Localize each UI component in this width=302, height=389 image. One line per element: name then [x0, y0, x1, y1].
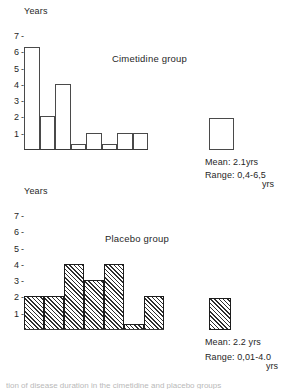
bar: [64, 264, 84, 329]
y-tick-label: 7: [14, 211, 19, 221]
y-tick-label: 5: [14, 64, 19, 74]
bar: [124, 324, 144, 329]
summary-bar-cimetidine: [209, 118, 234, 150]
y-tick-label: 3: [14, 96, 19, 106]
plot-area-placebo: 1-2-3-4-5-6-7-: [0, 208, 170, 330]
bar: [144, 296, 164, 329]
y-tick-2: 2-: [14, 292, 24, 302]
y-tick-label: 7: [14, 31, 19, 41]
bar: [86, 133, 102, 149]
y-tick-4: 4-: [14, 80, 24, 90]
y-tick-5: 5-: [14, 64, 24, 74]
bar: [117, 133, 133, 149]
y-tick-label: 6: [14, 227, 19, 237]
y-axis-ticks-placebo: 1-2-3-4-5-6-7-: [0, 208, 24, 330]
y-tick-7: 7-: [14, 31, 24, 41]
mean-label-placebo: Mean: 2.2 yrs: [205, 337, 261, 347]
bar: [133, 133, 149, 149]
y-tick-3: 3-: [14, 276, 24, 286]
bar: [44, 296, 64, 329]
bar: [55, 84, 71, 149]
bar: [104, 264, 124, 329]
y-tick-1: 1-: [14, 309, 24, 319]
y-tick-7: 7-: [14, 211, 24, 221]
range-label-cimetidine: Range: 0,4-6,5: [205, 170, 266, 180]
y-tick-4: 4-: [14, 260, 24, 270]
summary-bar-placebo: [209, 298, 231, 330]
y-tick-1: 1-: [14, 129, 24, 139]
mean-label-cimetidine: Mean: 2.1yrs: [205, 157, 258, 167]
bar: [40, 116, 56, 149]
range-unit-placebo: yrs: [266, 361, 278, 371]
y-tick-label: 3: [14, 276, 19, 286]
y-tick-label: 5: [14, 244, 19, 254]
y-tick-label: 1: [14, 129, 19, 139]
bar: [84, 280, 104, 329]
placebo-chart-panel: Years Placebo group 1-2-3-4-5-6-7- Mean:…: [0, 180, 302, 380]
y-tick-3: 3-: [14, 96, 24, 106]
y-tick-label: 6: [14, 47, 19, 57]
y-tick-5: 5-: [14, 244, 24, 254]
y-tick-label: 2: [14, 112, 19, 122]
bar-group-placebo: [24, 208, 164, 330]
y-tick-label: 2: [14, 292, 19, 302]
cimetidine-chart-panel: Years Cimetidine group 1-2-3-4-5-6-7- Me…: [0, 0, 302, 190]
y-tick-2: 2-: [14, 112, 24, 122]
y-axis-ticks-cimetidine: 1-2-3-4-5-6-7-: [0, 28, 24, 150]
plot-area-cimetidine: 1-2-3-4-5-6-7-: [0, 28, 170, 150]
y-tick-label: 1: [14, 309, 19, 319]
y-tick-label: 4: [14, 260, 19, 270]
bar: [24, 296, 44, 329]
y-tick-label: 4: [14, 80, 19, 90]
y-tick-6: 6-: [14, 47, 24, 57]
figure-caption: tion of disease duration in the cimetidi…: [6, 381, 296, 389]
bar-group-cimetidine: [24, 28, 148, 150]
range-label-placebo: Range: 0,01-4.0: [205, 352, 271, 362]
y-axis-title-placebo: Years: [24, 186, 48, 196]
y-tick-6: 6-: [14, 227, 24, 237]
bar: [102, 144, 118, 149]
bar: [71, 144, 87, 149]
y-axis-title-cimetidine: Years: [24, 6, 48, 16]
bar: [24, 47, 40, 149]
